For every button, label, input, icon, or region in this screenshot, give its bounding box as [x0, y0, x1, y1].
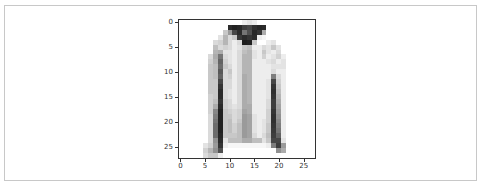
x-tick-label: 10 — [225, 162, 234, 171]
y-tick-label: 0 — [169, 17, 173, 26]
y-tick-label: 5 — [169, 42, 173, 51]
image-pixel-grid — [179, 20, 315, 158]
y-tick-label: 15 — [164, 92, 173, 101]
x-tick-label: 15 — [250, 162, 259, 171]
x-tick-label: 5 — [203, 162, 207, 171]
y-tick-mark — [175, 47, 178, 48]
y-tick-mark — [175, 122, 178, 123]
y-tick-label: 20 — [164, 117, 173, 126]
y-tick-mark — [175, 72, 178, 73]
x-tick-label: 0 — [178, 162, 182, 171]
x-tick-label: 20 — [275, 162, 284, 171]
y-tick-mark — [175, 22, 178, 23]
y-tick-label: 10 — [164, 67, 173, 76]
y-tick-mark — [175, 147, 178, 148]
y-tick-label: 25 — [164, 142, 173, 151]
pixel-cell — [310, 153, 315, 158]
x-tick-label: 25 — [299, 162, 308, 171]
y-tick-mark — [175, 97, 178, 98]
image-axes — [178, 19, 316, 159]
